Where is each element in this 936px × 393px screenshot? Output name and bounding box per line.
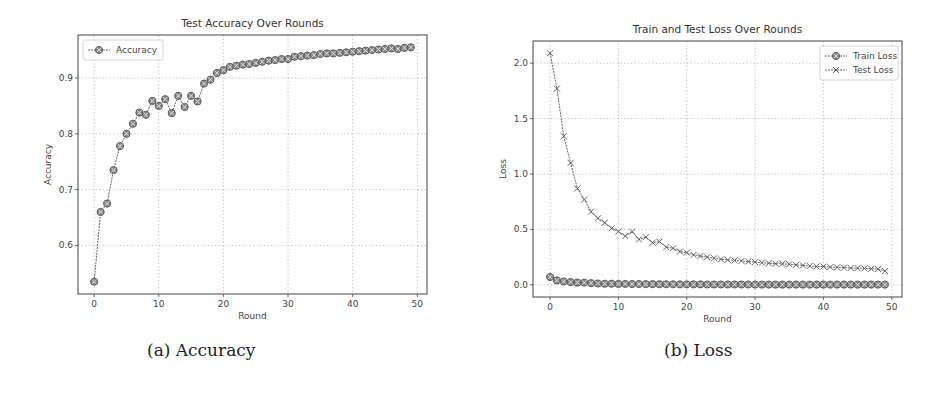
series-test-loss: [547, 50, 888, 274]
data-point-marker: [546, 273, 553, 280]
data-point-marker: [642, 281, 649, 288]
loss-plot: Train and Test Loss Over Rounds010203040…: [468, 0, 936, 330]
y-axis-label: Accuracy: [43, 143, 53, 185]
data-point-marker: [820, 281, 827, 288]
svg-text:50: 50: [886, 302, 898, 312]
data-point-marker: [813, 281, 820, 288]
svg-text:1.5: 1.5: [514, 114, 528, 124]
data-point-marker: [724, 281, 731, 288]
legend-item: Train Loss: [825, 51, 898, 61]
legend: Accuracy: [83, 40, 163, 60]
data-point-marker: [615, 280, 622, 287]
data-point-marker: [868, 281, 875, 288]
data-point-marker: [882, 268, 888, 274]
svg-text:40: 40: [818, 302, 830, 312]
grid: [78, 35, 427, 294]
legend-marker-icon: [832, 52, 839, 59]
svg-text:0.8: 0.8: [59, 129, 74, 139]
data-point-marker: [91, 278, 98, 285]
data-point-marker: [175, 92, 182, 99]
data-point-marker: [745, 281, 752, 288]
svg-text:30: 30: [749, 302, 761, 312]
data-point-marker: [394, 45, 401, 52]
data-point-marker: [149, 97, 156, 104]
data-point-marker: [690, 281, 697, 288]
svg-text:Accuracy: Accuracy: [116, 45, 158, 55]
data-point-marker: [181, 103, 188, 110]
data-point-marker: [676, 281, 683, 288]
svg-text:0.0: 0.0: [514, 280, 529, 290]
data-point-marker: [656, 281, 663, 288]
data-point-marker: [116, 142, 123, 149]
data-point-marker: [881, 281, 888, 288]
data-point-marker: [833, 281, 840, 288]
data-point-marker: [772, 281, 779, 288]
data-point-marker: [792, 281, 799, 288]
data-point-marker: [553, 277, 560, 284]
data-point-marker: [608, 280, 615, 287]
data-point-marker: [594, 280, 601, 287]
data-point-marker: [861, 281, 868, 288]
data-point-marker: [704, 281, 711, 288]
data-point-marker: [751, 281, 758, 288]
data-point-marker: [581, 279, 588, 286]
data-point-marker: [246, 60, 253, 67]
data-point-marker: [669, 281, 676, 288]
data-point-marker: [758, 281, 765, 288]
data-point-marker: [779, 281, 786, 288]
data-point-marker: [595, 215, 601, 221]
data-point-marker: [560, 278, 567, 285]
svg-text:0.6: 0.6: [59, 240, 74, 250]
x-axis-ticks: 01020304050: [547, 297, 898, 312]
data-point-marker: [799, 281, 806, 288]
svg-text:40: 40: [347, 299, 359, 309]
data-point-marker: [581, 196, 587, 202]
svg-text:10: 10: [613, 302, 625, 312]
data-point-marker: [847, 281, 854, 288]
svg-text:Train Loss: Train Loss: [852, 51, 898, 61]
data-point-marker: [717, 281, 724, 288]
svg-text:0: 0: [547, 302, 553, 312]
data-point-marker: [786, 281, 793, 288]
data-point-marker: [587, 280, 594, 287]
data-point-marker: [574, 185, 580, 191]
x-axis-label: Round: [703, 314, 731, 324]
data-point-marker: [226, 63, 233, 70]
data-point-marker: [207, 76, 214, 83]
data-point-marker: [827, 281, 834, 288]
plot-frame: [78, 35, 427, 294]
svg-text:0.7: 0.7: [59, 185, 73, 195]
svg-text:20: 20: [681, 302, 693, 312]
data-point-marker: [407, 44, 414, 51]
data-point-marker: [155, 102, 162, 109]
data-point-marker: [233, 62, 240, 69]
y-axis-ticks: 0.00.51.01.52.0: [514, 58, 533, 290]
svg-text:0.5: 0.5: [514, 224, 528, 234]
data-point-marker: [194, 98, 201, 105]
svg-text:30: 30: [282, 299, 294, 309]
svg-text:1.0: 1.0: [514, 169, 529, 179]
data-point-marker: [129, 120, 136, 127]
data-point-marker: [200, 80, 207, 87]
data-point-marker: [854, 281, 861, 288]
data-point-marker: [272, 57, 279, 64]
data-point-marker: [643, 234, 649, 240]
legend: Train LossTest Loss: [820, 46, 898, 80]
data-point-marker: [568, 160, 574, 166]
data-point-marker: [252, 59, 259, 66]
data-point-marker: [162, 96, 169, 103]
data-point-marker: [588, 209, 594, 215]
data-point-marker: [103, 200, 110, 207]
loss-chart: Train and Test Loss Over Rounds010203040…: [468, 0, 936, 330]
data-point-marker: [188, 92, 195, 99]
svg-text:20: 20: [218, 299, 230, 309]
svg-text:2.0: 2.0: [514, 58, 529, 68]
accuracy-plot: Test Accuracy Over Rounds010203040500.60…: [0, 0, 468, 330]
data-point-marker: [806, 281, 813, 288]
caption-accuracy: (a) Accuracy: [147, 340, 255, 360]
y-axis-label: Loss: [498, 159, 508, 179]
data-point-marker: [840, 281, 847, 288]
data-point-marker: [628, 280, 635, 287]
svg-text:50: 50: [412, 299, 424, 309]
svg-text:10: 10: [153, 299, 165, 309]
